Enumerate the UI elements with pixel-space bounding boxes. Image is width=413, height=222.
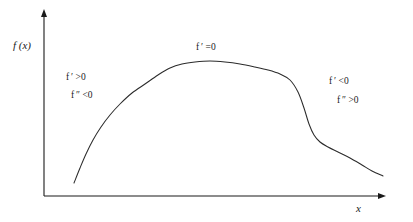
annotation-right-second-derivative: f ″ >0 bbox=[337, 95, 359, 105]
y-axis-arrow-icon bbox=[41, 9, 47, 17]
x-axis-label: x bbox=[355, 202, 361, 214]
x-axis-arrow-icon bbox=[378, 193, 386, 199]
annotation-left-second-derivative: f ″ <0 bbox=[71, 90, 93, 100]
y-axis-label: f (x) bbox=[13, 39, 31, 52]
annotation-plateau-first-derivative: f ′ =0 bbox=[196, 42, 216, 52]
figure-canvas: f (x) x f ′ >0 f ″ <0 f ′ =0 f ′ <0 f ″ … bbox=[0, 0, 413, 222]
annotation-right-first-derivative: f ′ <0 bbox=[329, 76, 349, 86]
derivative-sign-figure: f (x) x f ′ >0 f ″ <0 f ′ =0 f ′ <0 f ″ … bbox=[0, 0, 413, 222]
annotation-left-first-derivative: f ′ >0 bbox=[66, 72, 86, 82]
